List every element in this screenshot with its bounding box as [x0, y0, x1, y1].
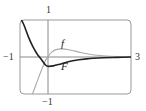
- curve-F: [21, 20, 131, 66]
- curve-f: [32, 49, 131, 94]
- x-tick-left: −1: [3, 52, 14, 62]
- label-f: f: [61, 38, 64, 49]
- y-tick-bottom: −1: [42, 97, 53, 107]
- y-tick-top: 1: [46, 5, 51, 15]
- chart-plot: [0, 0, 146, 111]
- label-F: F: [61, 61, 68, 72]
- x-tick-right: 3: [135, 52, 140, 62]
